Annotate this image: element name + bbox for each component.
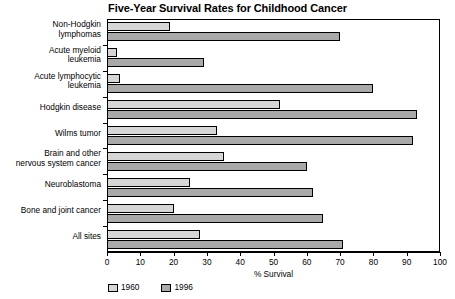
category-axis-tick [103,71,108,72]
legend-item-1960: 1960 [108,283,139,292]
category-axis-tick [103,200,108,201]
x-tick-label: 10 [136,257,145,267]
legend-swatch-icon [108,284,118,292]
x-tick-label: 100 [433,257,447,267]
category-label: Non-Hodgkinlymphomas [0,20,101,39]
bar-1996-2 [107,84,373,93]
bar-1996-7 [107,214,323,223]
category-axis-tick [103,123,108,124]
x-tick [240,252,241,256]
x-axis-title: % Survival [107,269,440,279]
bar-1960-3 [107,100,280,109]
category-label: Bone and joint cancer [0,206,101,216]
x-tick [174,252,175,256]
x-tick [207,252,208,256]
bar-1960-2 [107,74,120,83]
category-label-line: leukemia [0,56,101,66]
bar-1996-8 [107,240,343,249]
x-tick-label: 90 [402,257,411,267]
bar-1960-5 [107,152,224,161]
x-tick-label: 80 [369,257,378,267]
bar-1960-6 [107,178,190,187]
legend-item-1996: 1996 [161,283,192,292]
category-label-line: Hodgkin disease [0,103,101,113]
bar-1996-0 [107,32,340,41]
category-label: Acute lymphocyticleukemia [0,72,101,91]
x-tick [107,252,108,256]
x-tick-label: 0 [105,257,110,267]
x-tick-label: 30 [202,257,211,267]
legend-label: 1996 [174,283,192,292]
legend-swatch-icon [161,284,171,292]
category-label-line: nervous system cancer [0,159,101,169]
bars-layer [107,19,440,252]
legend-label: 1960 [121,283,139,292]
category-label-line: All sites [0,232,101,242]
bar-1996-3 [107,110,417,119]
category-axis-tick [103,45,108,46]
category-axis-tick [103,226,108,227]
bar-1960-1 [107,48,117,57]
category-label-line: Bone and joint cancer [0,206,101,216]
category-axis-tick [103,97,108,98]
category-axis-tick [103,174,108,175]
x-tick [307,252,308,256]
x-tick-label: 40 [236,257,245,267]
category-label-line: leukemia [0,82,101,92]
bar-1996-4 [107,136,413,145]
x-tick [340,252,341,256]
x-tick [440,252,441,256]
x-tick [140,252,141,256]
x-tick [407,252,408,256]
chart-legend: 19601996 [108,283,193,292]
category-label-line: Wilms tumor [0,129,101,139]
category-label: Acute myeloidleukemia [0,46,101,65]
x-tick-label: 60 [302,257,311,267]
category-label: Brain and othernervous system cancer [0,150,101,169]
bar-1996-6 [107,188,313,197]
x-tick-label: 70 [335,257,344,267]
bar-1960-4 [107,126,217,135]
category-label: Hodgkin disease [0,103,101,113]
bar-1960-8 [107,230,200,239]
bar-1960-7 [107,204,174,213]
category-label: Wilms tumor [0,129,101,139]
category-axis-labels: Non-HodgkinlymphomasAcute myeloidleukemi… [0,19,104,252]
x-tick-label: 20 [169,257,178,267]
survival-rates-bar-chart: Five-Year Survival Rates for Childhood C… [0,0,455,299]
chart-title: Five-Year Survival Rates for Childhood C… [0,2,455,14]
x-tick-label: 50 [269,257,278,267]
category-label: Neuroblastoma [0,180,101,190]
category-label-line: lymphomas [0,30,101,40]
category-label-line: Neuroblastoma [0,180,101,190]
bar-1996-5 [107,162,307,171]
category-label: All sites [0,232,101,242]
bar-1960-0 [107,22,170,31]
bar-1996-1 [107,58,204,67]
category-axis-tick [103,148,108,149]
x-tick [373,252,374,256]
x-tick [274,252,275,256]
